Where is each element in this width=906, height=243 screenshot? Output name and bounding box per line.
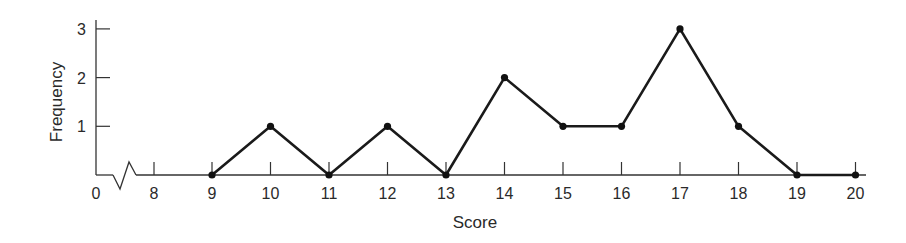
data-point — [325, 171, 332, 178]
data-point — [735, 123, 742, 130]
data-point — [793, 171, 800, 178]
data-point — [267, 123, 274, 130]
data-point — [384, 123, 391, 130]
x-tick-label: 15 — [554, 185, 572, 202]
frequency-polygon-chart: 123 0891011121314151617181920 Frequency … — [0, 0, 906, 243]
x-tick-label: 9 — [208, 185, 217, 202]
y-axis-label: Frequency — [47, 61, 66, 142]
data-point — [501, 74, 508, 81]
data-point — [676, 25, 683, 32]
y-axis-ticks: 123 — [77, 21, 110, 135]
frequency-line — [212, 29, 856, 175]
data-point — [852, 171, 859, 178]
axis-break-symbol — [113, 162, 136, 189]
x-tick-label: 11 — [321, 185, 338, 202]
data-point — [559, 123, 566, 130]
x-tick-label: 8 — [150, 185, 159, 202]
x-tick-label: 13 — [437, 185, 455, 202]
x-tick-label: 19 — [788, 185, 806, 202]
y-tick-label: 2 — [77, 70, 86, 87]
data-point — [618, 123, 625, 130]
data-point — [442, 171, 449, 178]
x-axis-label: Score — [453, 213, 497, 232]
y-tick-label: 1 — [77, 118, 86, 135]
x-tick-label: 10 — [262, 185, 280, 202]
data-point — [208, 171, 215, 178]
x-tick-label: 12 — [379, 185, 397, 202]
x-axis-ticks: 0891011121314151617181920 — [92, 162, 865, 202]
x-tick-label: 14 — [496, 185, 514, 202]
x-tick-label: 0 — [92, 185, 101, 202]
y-tick-label: 3 — [77, 21, 86, 38]
x-tick-label: 17 — [671, 185, 689, 202]
x-tick-label: 20 — [847, 185, 865, 202]
x-tick-label: 18 — [730, 185, 748, 202]
x-tick-label: 16 — [613, 185, 631, 202]
